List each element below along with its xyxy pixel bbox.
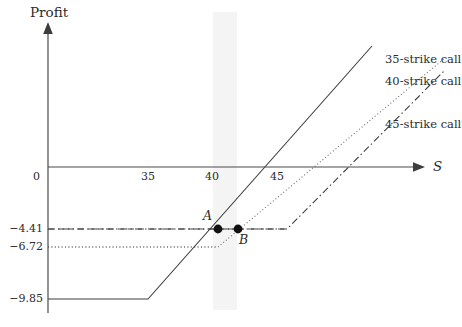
point-label-b: B xyxy=(239,234,248,247)
y-tick-label-672: −6.72 xyxy=(0,241,43,252)
highlight-band xyxy=(213,12,237,310)
chart-canvas xyxy=(0,0,462,327)
x-tick-label-0: 0 xyxy=(33,171,40,182)
y-tick-label-985: −9.85 xyxy=(0,293,43,304)
data-point-a xyxy=(214,225,223,234)
x-tick-label-35: 35 xyxy=(141,171,155,182)
x-axis-title: S xyxy=(433,160,442,174)
legend-item-35-strike-call: 35-strike call xyxy=(385,54,461,66)
x-tick-label-40: 40 xyxy=(205,171,219,182)
series-line-45-strike-call xyxy=(48,70,445,229)
x-tick-label-45: 45 xyxy=(270,171,284,182)
y-tick-label-441: −4.41 xyxy=(0,223,43,234)
y-axis-title: Profit xyxy=(30,6,68,20)
y-axis-arrowhead xyxy=(43,22,53,34)
point-label-a: A xyxy=(203,210,212,223)
x-axis-arrowhead xyxy=(413,162,425,172)
legend-item-40-strike-call: 40-strike call xyxy=(385,76,461,88)
legend-item-45-strike-call: 45-strike call xyxy=(385,119,461,131)
profit-diagram: Profit S 0 35 40 45 −4.41 −6.72 −9.85 A … xyxy=(0,0,462,327)
